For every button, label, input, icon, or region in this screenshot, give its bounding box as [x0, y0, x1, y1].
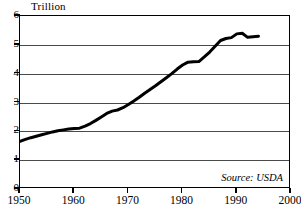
x-axis-ticks: 195019601970198019902000 [0, 188, 301, 215]
x-tick-mark [181, 188, 183, 193]
y-axis-ticks: 0123456 [0, 0, 19, 203]
x-tick-label: 1970 [107, 194, 147, 206]
y-axis-title: Trillion [31, 0, 66, 12]
x-tick-label: 2000 [270, 194, 301, 206]
source-annotation: Source: USDA [221, 172, 283, 183]
x-tick-mark [289, 188, 291, 193]
x-tick-label: 1990 [216, 194, 256, 206]
data-series-line [20, 16, 291, 189]
x-tick-label: 1980 [162, 194, 202, 206]
chart-container: Trillion 0123456 Source: USDA 1950196019… [0, 0, 301, 215]
x-tick-mark [72, 188, 74, 193]
x-tick-mark [18, 188, 20, 193]
plot-area: Source: USDA [19, 15, 290, 188]
x-tick-mark [235, 188, 237, 193]
x-tick-label: 1950 [0, 194, 39, 206]
x-tick-label: 1960 [53, 194, 93, 206]
x-tick-mark [127, 188, 129, 193]
